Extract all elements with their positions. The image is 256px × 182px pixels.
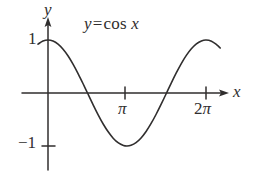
- equation-annotation: y=cos x: [84, 15, 139, 32]
- equation-equals-sign: =: [92, 14, 104, 33]
- ytick-label-one: 1: [28, 30, 37, 47]
- xtick-two-pi-coefficient: 2: [194, 99, 203, 118]
- equation-lhs: y: [84, 14, 92, 33]
- equation-argument: x: [131, 14, 139, 33]
- y-axis-label: y: [44, 1, 52, 18]
- cosine-graph-figure: y x y=cos x 1 −1 π 2π: [0, 0, 256, 182]
- x-axis-label: x: [233, 83, 241, 100]
- xtick-label-pi: π: [118, 100, 127, 117]
- xtick-two-pi-symbol: π: [203, 99, 212, 118]
- xtick-label-two-pi: 2π: [194, 100, 211, 117]
- ytick-label-negative-one: −1: [18, 134, 36, 151]
- equation-function-name: cos: [104, 14, 127, 33]
